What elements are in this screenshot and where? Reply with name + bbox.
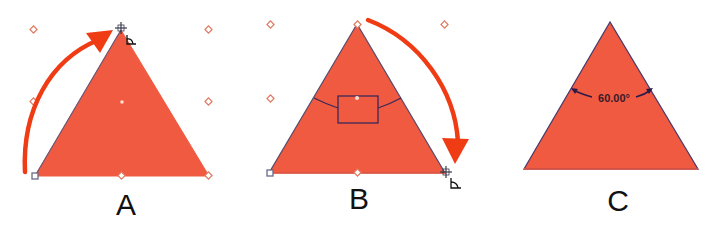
- handle-top-left[interactable]: [267, 21, 274, 28]
- panel-a: A: [25, 22, 212, 221]
- panel-label-c: C: [607, 184, 629, 217]
- handle-top-left[interactable]: [30, 26, 37, 33]
- vertex-handle-bottom-left[interactable]: [267, 170, 273, 176]
- handle-top-right[interactable]: [441, 21, 448, 28]
- angle-value: 60.00°: [598, 92, 630, 104]
- diagram-canvas: A B: [0, 0, 721, 227]
- crosshair-cursor-icon: [115, 22, 127, 34]
- center-point-a: [120, 100, 124, 104]
- handle-mid-right[interactable]: [205, 98, 212, 105]
- handle-mid-left[interactable]: [267, 95, 274, 102]
- vertex-handle-bottom-left[interactable]: [32, 173, 38, 179]
- arrowhead-b-icon: [442, 138, 469, 164]
- angle-cursor-icon: [451, 178, 461, 188]
- handle-top-right[interactable]: [205, 26, 212, 33]
- panel-label-b: B: [349, 182, 369, 215]
- center-point-b: [355, 96, 359, 100]
- panel-b: B: [267, 20, 469, 215]
- panel-c: 60.00° C: [524, 22, 698, 217]
- panel-label-a: A: [116, 188, 136, 221]
